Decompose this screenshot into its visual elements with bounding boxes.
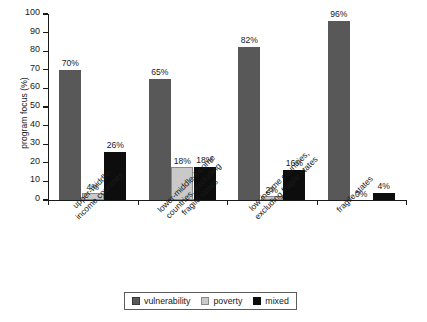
y-tick: 30 — [43, 144, 48, 145]
y-tick-label: 50 — [30, 100, 40, 110]
bar-vulnerability: 70% — [59, 70, 81, 200]
legend-item-vulnerability[interactable]: vulnerability — [132, 296, 190, 306]
x-tick — [48, 200, 49, 205]
y-tick: 90 — [43, 32, 48, 33]
y-tick-label: 70 — [30, 63, 40, 73]
y-tick: 60 — [43, 88, 48, 89]
x-tick — [227, 200, 228, 205]
bar-value-label: 82% — [241, 35, 258, 45]
y-axis-title: program focus (%) — [19, 43, 29, 183]
y-tick: 50 — [43, 106, 48, 107]
legend-swatch-mixed-icon — [253, 297, 261, 305]
x-tick — [138, 200, 139, 205]
bar-vulnerability: 65% — [149, 79, 171, 200]
bar-vulnerability: 82% — [238, 47, 260, 200]
bar-value-label: 65% — [151, 67, 168, 77]
y-tick-label: 80 — [30, 44, 40, 54]
bar-vulnerability: 96% — [328, 21, 350, 200]
bar-value-label: 18% — [174, 156, 191, 166]
y-tick-label: 0 — [35, 193, 40, 203]
y-tick-label: 10 — [30, 174, 40, 184]
bar-value-label: 96% — [330, 9, 347, 19]
x-tick — [406, 200, 407, 205]
y-tick: 40 — [43, 125, 48, 126]
legend-label: vulnerability — [144, 296, 190, 306]
y-tick-label: 100 — [25, 7, 40, 17]
legend-swatch-vulnerability-icon — [132, 297, 140, 305]
y-tick: 20 — [43, 162, 48, 163]
x-tick — [317, 200, 318, 205]
y-axis-line — [48, 14, 49, 200]
bar-mixed: 4% — [373, 193, 395, 200]
y-tick-label: 90 — [30, 26, 40, 36]
legend-item-poverty[interactable]: poverty — [201, 296, 242, 306]
y-tick-label: 40 — [30, 119, 40, 129]
legend-item-mixed[interactable]: mixed — [253, 296, 288, 306]
legend-swatch-poverty-icon — [201, 297, 209, 305]
bar-chart: program focus (%) 0102030405060708090100… — [0, 0, 427, 322]
y-tick-label: 20 — [30, 156, 40, 166]
bar-value-label: 4% — [378, 181, 390, 191]
y-tick-label: 30 — [30, 137, 40, 147]
y-tick: 70 — [43, 69, 48, 70]
y-tick: 80 — [43, 51, 48, 52]
bar-value-label: 70% — [62, 58, 79, 68]
chart-legend: vulnerabilitypovertymixed — [124, 292, 297, 310]
y-tick-label: 60 — [30, 81, 40, 91]
bar-value-label: 26% — [107, 140, 124, 150]
legend-label: mixed — [265, 296, 288, 306]
y-tick: 10 — [43, 181, 48, 182]
y-tick: 100 — [43, 13, 48, 14]
legend-label: poverty — [213, 296, 242, 306]
